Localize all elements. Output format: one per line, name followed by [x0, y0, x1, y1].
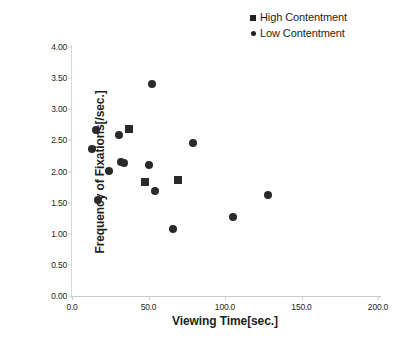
- y-tick-mark: [68, 78, 72, 79]
- data-point-low-contentment: [148, 80, 156, 88]
- square-marker-icon: [246, 15, 260, 21]
- x-axis-title: Viewing Time[sec.]: [172, 314, 278, 328]
- data-point-high-contentment: [141, 178, 149, 186]
- x-tick-mark: [302, 296, 303, 300]
- x-tick-mark: [72, 296, 73, 300]
- y-tick-label: 0.00: [51, 291, 67, 301]
- y-tick-label: 2.00: [51, 167, 67, 177]
- x-tick-label: 150.0: [291, 302, 311, 312]
- data-point-low-contentment: [151, 187, 159, 195]
- y-tick-mark: [68, 202, 72, 203]
- data-point-low-contentment: [115, 131, 123, 139]
- y-tick-label: 3.00: [51, 104, 67, 114]
- x-tick-label: 50.0: [141, 302, 157, 312]
- data-point-low-contentment: [88, 145, 96, 153]
- legend-item-low-contentment: Low Contentment: [246, 26, 406, 41]
- y-tick-mark: [68, 171, 72, 172]
- x-tick-label: 0.0: [66, 302, 77, 312]
- data-point-low-contentment: [105, 167, 113, 175]
- data-point-low-contentment: [94, 196, 102, 204]
- data-point-low-contentment: [145, 161, 153, 169]
- x-tick-label: 100.0: [215, 302, 235, 312]
- data-point-high-contentment: [174, 176, 182, 184]
- legend-item-high-contentment: High Contentment: [246, 10, 406, 25]
- y-tick-label: 0.50: [51, 260, 67, 270]
- y-tick-mark: [68, 109, 72, 110]
- data-point-low-contentment: [264, 191, 272, 199]
- circle-marker-icon: [246, 31, 260, 36]
- y-tick-label: 3.50: [51, 73, 67, 83]
- legend-label-high-contentment: High Contentment: [260, 11, 347, 24]
- y-tick-mark: [68, 264, 72, 265]
- y-tick-label: 2.50: [51, 135, 67, 145]
- data-point-high-contentment: [125, 125, 133, 133]
- y-tick-label: 1.00: [51, 229, 67, 239]
- x-tick-mark: [378, 296, 379, 300]
- y-tick-label: 1.50: [51, 198, 67, 208]
- x-tick-label: 200.0: [368, 302, 388, 312]
- chart-legend: High Contentment Low Contentment: [246, 10, 406, 42]
- y-tick-label: 4.00: [51, 42, 67, 52]
- data-point-low-contentment: [189, 139, 197, 147]
- data-point-low-contentment: [169, 225, 177, 233]
- legend-label-low-contentment: Low Contentment: [260, 27, 345, 40]
- x-tick-mark: [149, 296, 150, 300]
- plot-area: Frequency of Fixations[/sec.] Viewing Ti…: [72, 47, 378, 296]
- scatter-plot-figure: High Contentment Low Contentment Frequen…: [0, 0, 411, 338]
- y-tick-mark: [68, 233, 72, 234]
- x-tick-mark: [225, 296, 226, 300]
- y-tick-mark: [68, 47, 72, 48]
- y-tick-mark: [68, 140, 72, 141]
- data-point-low-contentment: [120, 159, 128, 167]
- data-point-low-contentment: [229, 213, 237, 221]
- x-axis-line: [71, 296, 381, 297]
